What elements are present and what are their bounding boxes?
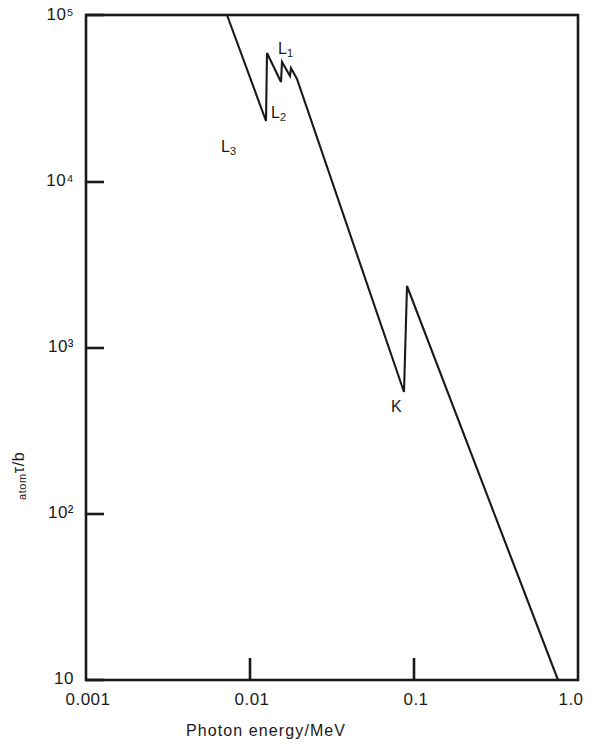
plot-canvas [0,0,602,749]
axes-frame [86,15,578,680]
y-tick-label-1e3: 10³ [22,337,74,357]
x-tick-label-1.0: 1.0 [540,690,602,710]
y-axis-ticks [86,15,104,680]
y-tick-label-1e5: 10⁵ [22,5,74,25]
x-axis-ticks [250,658,414,680]
x-tick-label-0.01: 0.01 [212,690,292,710]
x-axis-title: Photon energy/MeV [186,722,346,740]
photoelectric-cross-section-figure: 10⁵ 10⁴ 10³ 10² 10 0.001 0.01 0.1 1.0 Ph… [0,0,602,749]
y-tick-label-1e4: 10⁴ [22,171,74,191]
y-tick-label-1e2: 10² [22,503,74,523]
annotation-L3: L3 [221,138,236,156]
annotation-L1: L1 [278,40,293,58]
y-axis-title-suffix: /b [10,452,27,467]
y-tick-label-10: 10 [22,669,74,689]
annotation-L2: L2 [271,104,286,122]
x-tick-label-0.1: 0.1 [378,690,454,710]
y-axis-title-prefix: atom [16,473,28,500]
y-axis-title: atomτ/b [10,452,28,500]
x-tick-label-0.001: 0.001 [48,690,128,710]
annotation-K: K [391,398,402,416]
